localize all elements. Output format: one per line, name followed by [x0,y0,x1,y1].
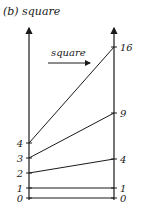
mapping-line-3-to-9 [29,113,114,158]
right-label-0: 0 [120,193,127,204]
diagram-title: (b) square [3,5,61,18]
right-label-1: 1 [120,183,126,194]
left-label-3: 3 [17,153,23,164]
left-label-4: 4 [16,138,23,149]
function-label: square [51,47,86,58]
right-label-9: 9 [120,108,127,119]
left-label-0: 0 [17,193,24,204]
mapping-line-4-to-16 [29,47,114,143]
left-label-2: 2 [16,168,23,179]
mapping-diagram: (b) square square 01234014916 [0,0,141,216]
left-label-1: 1 [17,183,23,194]
mapping-line-2-to-4 [29,159,114,173]
right-label-4: 4 [119,154,126,165]
right-label-16: 16 [120,42,133,53]
